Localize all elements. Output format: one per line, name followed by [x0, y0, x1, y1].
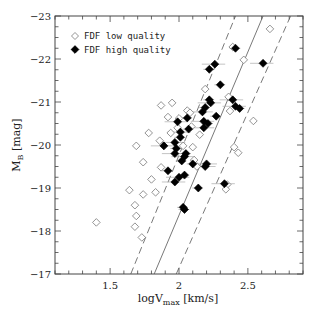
scatter-chart: 1.522.5−23−22−21−20−19−18−17 FDF low qua… [0, 0, 319, 317]
high-quality-point [176, 133, 184, 141]
x-tick-label: 1.5 [102, 280, 118, 291]
x-axis-title: logVmax [km/s] [138, 292, 219, 307]
legend-filled-diamond-icon [71, 46, 79, 54]
y-tick-label: −18 [30, 226, 51, 237]
legend: FDF low qualityFDF high quality [71, 31, 171, 55]
y-tick-label: −21 [30, 97, 51, 108]
legend-label: FDF high quality [84, 45, 171, 55]
low-quality-point [131, 201, 139, 209]
legend-label: FDF low quality [84, 31, 166, 41]
low-quality-point [250, 117, 258, 125]
high-quality-point [164, 167, 172, 175]
low-quality-point [145, 129, 153, 137]
low-quality-point [132, 142, 140, 150]
x-tick-label: 2 [176, 280, 182, 291]
y-tick-label: −19 [30, 183, 51, 194]
low-quality-point [189, 143, 197, 151]
low-quality-point [164, 113, 172, 121]
low-quality-point [266, 25, 274, 33]
high-quality-point [171, 138, 179, 146]
error-bars [151, 48, 274, 209]
low-quality-point [157, 164, 165, 172]
y-tick-label: −23 [30, 11, 51, 22]
fit-lines [131, 16, 291, 274]
low-quality-point [168, 99, 176, 107]
low-quality-point [131, 223, 139, 231]
high-quality-point [259, 59, 267, 67]
plot-frame [55, 16, 303, 274]
low-quality-point [234, 149, 242, 157]
high-quality-point [205, 65, 213, 73]
low-quality-point [148, 176, 156, 184]
high-quality-point [194, 184, 202, 192]
low-quality-point [167, 129, 175, 137]
high-quality-point [216, 81, 224, 89]
low-quality-point [152, 189, 160, 197]
tully-fisher-fit-line [154, 16, 263, 274]
low-quality-point [201, 85, 209, 93]
low-quality-point [132, 212, 140, 220]
low-quality-point [126, 186, 134, 194]
legend-open-diamond-icon [72, 33, 79, 40]
low-quality-point [196, 131, 204, 139]
low-quality-point [226, 107, 234, 115]
x-tick-label: 2.5 [240, 280, 256, 291]
plot-border [55, 16, 303, 274]
axis-ticks [55, 16, 303, 274]
low-quality-point [157, 102, 165, 110]
low-quality-point [139, 191, 147, 199]
y-axis-title: MB [mag] [10, 118, 25, 171]
high-quality-point [211, 60, 219, 68]
y-tick-label: −17 [30, 269, 51, 280]
high-quality-point [212, 112, 220, 120]
data-points [93, 25, 274, 241]
y-tick-label: −20 [30, 140, 51, 151]
low-quality-point [240, 56, 248, 64]
low-quality-point [93, 219, 101, 227]
low-quality-point [139, 158, 147, 166]
y-tick-label: −22 [30, 54, 51, 65]
